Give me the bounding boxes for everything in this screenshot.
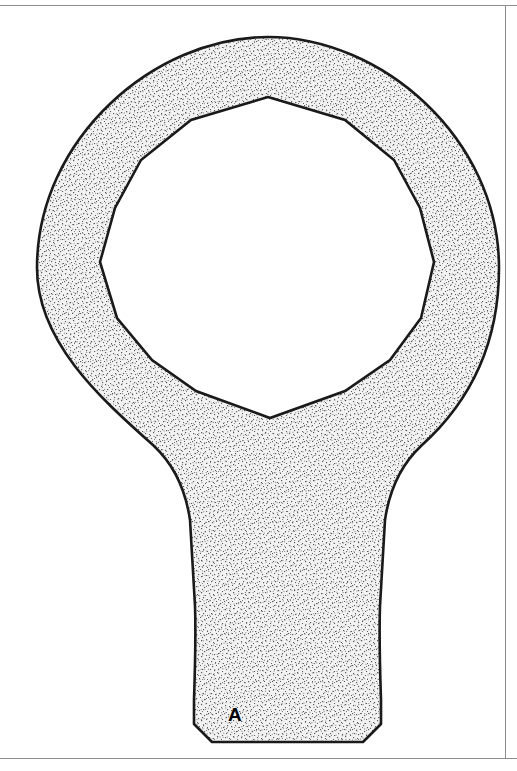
sheet-border-bottom [0, 758, 517, 759]
drawing-page: A [0, 0, 517, 771]
part-reference-label-a: A [228, 705, 242, 724]
sheet-border-top [0, 5, 517, 6]
sheet-border-right [505, 5, 506, 759]
technical-drawing-figure [0, 0, 517, 771]
wrench-body-group [0, 0, 517, 771]
